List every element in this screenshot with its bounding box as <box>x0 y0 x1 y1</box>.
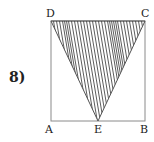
label-e: E <box>94 123 102 136</box>
label-b: B <box>140 123 148 136</box>
problem-number: 8) <box>9 69 25 85</box>
geometry-figure: D C A E B 8) <box>0 0 154 142</box>
label-d: D <box>46 7 55 20</box>
label-c: C <box>141 7 149 20</box>
label-a: A <box>44 123 54 136</box>
